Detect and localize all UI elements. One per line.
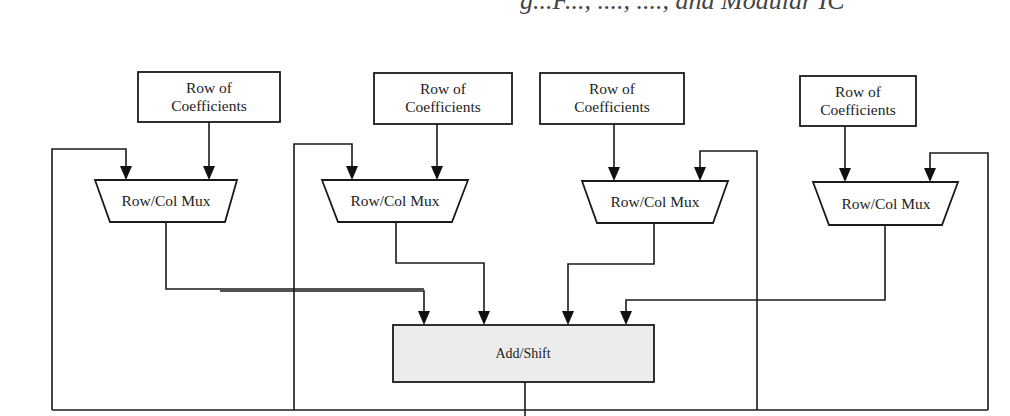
mux-block-4: Row/Col Mux [813,182,958,225]
mux-block-3: Row/Col Mux [582,181,728,223]
coefficient-block-label: Row of [589,80,636,97]
coefficient-block-label: Coefficients [171,97,246,114]
coefficient-block-label: Coefficients [820,101,895,118]
coefficient-block-2: Row of Coefficients [374,73,512,124]
coefficient-block-3: Row of Coefficients [540,73,684,124]
coefficient-block-1: Row of Coefficients [138,72,280,122]
mux-block-label: Row/Col Mux [350,192,439,209]
mux-block-label: Row/Col Mux [121,192,210,209]
add-shift-label: Add/Shift [495,346,550,361]
mux-block-label: Row/Col Mux [841,195,930,212]
add-shift-block: Add/Shift [393,325,654,382]
coefficient-block-label: Coefficients [405,98,480,115]
coefficient-block-label: Coefficients [574,98,649,115]
coefficient-block-label: Row of [186,79,233,96]
mux-block-1: Row/Col Mux [95,180,237,222]
block-diagram: Row of Coefficients Row of Coefficients … [0,0,1010,416]
arrowheads [120,166,936,325]
coefficient-block-label: Row of [420,80,467,97]
mux-block-label: Row/Col Mux [610,193,699,210]
coefficient-block-4: Row of Coefficients [800,76,916,126]
mux-block-2: Row/Col Mux [322,180,468,222]
coefficient-block-label: Row of [835,83,882,100]
